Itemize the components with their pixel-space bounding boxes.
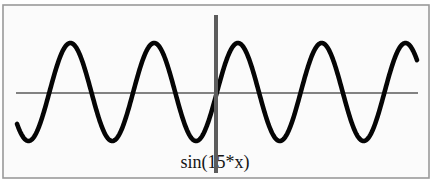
function-plot: sin(15*x) (0, 0, 433, 184)
